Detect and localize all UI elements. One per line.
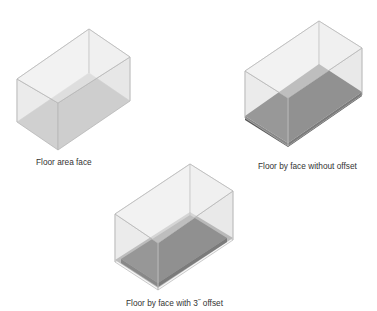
floor-illustration xyxy=(0,0,377,311)
box-floor-area-face xyxy=(17,29,130,150)
caption-floor-without-offset: Floor by face without offset xyxy=(258,161,357,171)
box-floor-with-offset xyxy=(115,164,233,290)
caption-floor-area-face: Floor area face xyxy=(36,157,92,167)
caption-floor-with-offset: Floor by face with 3˝ offset xyxy=(126,298,223,308)
box-floor-without-offset xyxy=(245,21,362,147)
